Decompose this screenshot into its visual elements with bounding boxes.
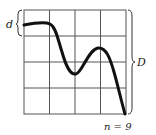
right-brace-D (128, 10, 135, 114)
label-d: d (6, 18, 13, 31)
label-n: n = 9 (104, 121, 132, 132)
diagram: d D n = 9 (0, 0, 156, 135)
label-D: D (136, 56, 146, 69)
left-brace-d (16, 10, 22, 36)
